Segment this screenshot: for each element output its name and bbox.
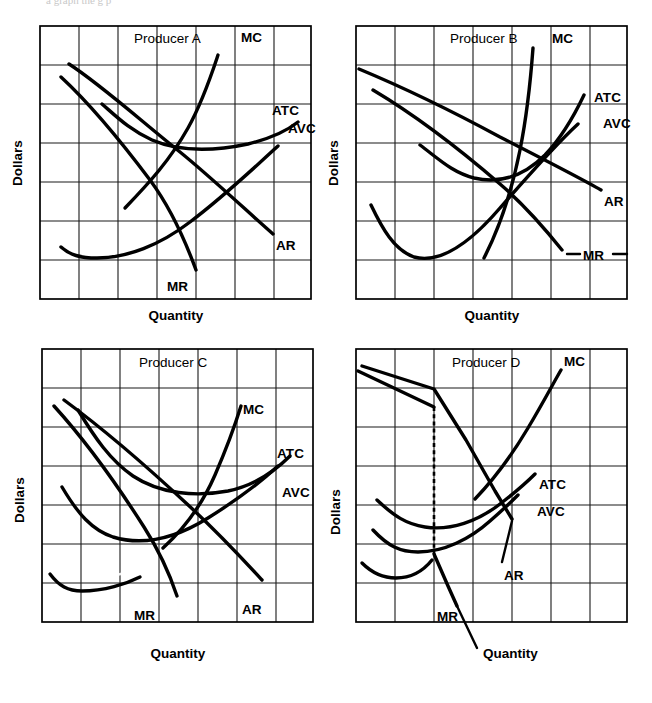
panel-c-xlabel: Quantity bbox=[151, 646, 206, 661]
panel-producer-d: Producer D MC ATC AVC AR MR Quantity Dol… bbox=[328, 349, 627, 661]
panel-b-ylabel: Dollars bbox=[326, 140, 341, 186]
panel-d-atc-label: ATC bbox=[539, 477, 566, 492]
panel-d-ylabel: Dollars bbox=[328, 489, 343, 535]
panel-a-mc-label: MC bbox=[241, 30, 262, 45]
panel-d-xlabel: Quantity bbox=[483, 646, 538, 661]
panel-b-curve-mc bbox=[484, 48, 533, 258]
panel-a-curve-avc bbox=[61, 146, 278, 258]
panel-producer-c: Producer C MC ATC AVC AR MR Quantity Dol… bbox=[12, 349, 313, 661]
panel-d-curve-ar bbox=[362, 366, 512, 519]
panel-b-curve-avc bbox=[371, 124, 578, 258]
panel-d-title: Producer D bbox=[452, 355, 521, 370]
panel-a-curve-ar bbox=[69, 64, 273, 234]
panel-c-atc-label: ATC bbox=[277, 446, 304, 461]
panel-d-mr-quantity-leader bbox=[457, 606, 477, 648]
panel-c-title: Producer C bbox=[139, 355, 208, 370]
panel-c-ylabel: Dollars bbox=[12, 477, 27, 523]
panel-b-mc-label: MC bbox=[552, 31, 573, 46]
panel-b-mr-label: MR bbox=[583, 248, 604, 263]
panel-c-mc-label: MC bbox=[243, 402, 264, 417]
panel-a-ar-label: AR bbox=[276, 238, 296, 253]
panel-b-title: Producer B bbox=[450, 31, 518, 46]
panel-a-avc-label: AVC bbox=[288, 121, 316, 136]
panel-b-ar-label: AR bbox=[604, 194, 624, 209]
panel-d-avc-label: AVC bbox=[537, 504, 565, 519]
panel-b-avc-label: AVC bbox=[603, 116, 631, 131]
panel-c-mr-label: MR bbox=[134, 608, 155, 623]
panel-a-xlabel: Quantity bbox=[149, 308, 204, 323]
panel-d-mc-label: MC bbox=[564, 354, 585, 369]
panel-d-curve-mr bbox=[434, 554, 457, 606]
panel-d-curve-lower-flat bbox=[362, 560, 432, 578]
panel-c-crossing-artifact bbox=[108, 572, 136, 578]
panel-d-ar-label: AR bbox=[504, 568, 524, 583]
panel-d-mr-label: MR bbox=[437, 609, 458, 624]
panel-a-atc-label: ATC bbox=[272, 103, 299, 118]
panel-d-ar-leader bbox=[502, 521, 512, 562]
panel-c-frame bbox=[42, 349, 313, 622]
four-producer-cost-curve-figure: Producer A MC ATC AVC AR MR Quantity Dol… bbox=[0, 0, 652, 703]
panel-c-ar-label: AR bbox=[242, 602, 262, 617]
panel-a-ylabel: Dollars bbox=[10, 140, 25, 186]
panel-a-curve-mr bbox=[61, 77, 196, 270]
panel-b-atc-label: ATC bbox=[594, 90, 621, 105]
panel-producer-b: Producer B MC ATC AVC AR MR Quantity Dol… bbox=[326, 26, 631, 323]
panel-b-xlabel: Quantity bbox=[465, 308, 520, 323]
panel-a-mr-label: MR bbox=[167, 279, 188, 294]
panel-c-avc-label: AVC bbox=[282, 485, 310, 500]
panel-c-curve-avc bbox=[62, 466, 278, 541]
panel-c-gridlines bbox=[42, 349, 313, 622]
panel-producer-a: Producer A MC ATC AVC AR MR Quantity Dol… bbox=[10, 26, 316, 323]
panel-a-title: Producer A bbox=[134, 31, 201, 46]
